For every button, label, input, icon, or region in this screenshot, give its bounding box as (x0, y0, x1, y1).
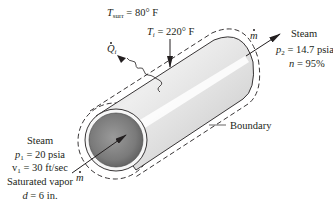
t-i-value: = 220° F (157, 26, 194, 37)
t-surr-value: = 80° F (126, 7, 158, 18)
n-value: = 95% (297, 58, 325, 69)
surroundings-temp-label: Tsurr = 80° F (107, 7, 158, 22)
outlet-pressure-label: p2 = 14.7 psia (276, 44, 333, 59)
n-symbol: n (289, 58, 294, 69)
p2-subscript: 2 (281, 49, 285, 57)
inlet-diameter-label: d = 6 in. (0, 190, 80, 202)
pipe-bore (89, 113, 143, 167)
outlet-efficiency-label: n = 95% (289, 58, 325, 70)
inlet-title: Steam (0, 135, 80, 147)
inlet-state-label: Saturated vapor (0, 176, 80, 188)
outlet-title: Steam (276, 28, 332, 40)
outlet-mass-flow-label: m (250, 30, 258, 42)
inlet-velocity-label: v1 = 30 ft/sec (0, 162, 80, 177)
heat-transfer-label: Qi (107, 43, 117, 58)
v1-value: = 30 ft/sec (23, 162, 67, 173)
q-symbol: Q (107, 43, 115, 55)
d-symbol: d (22, 190, 27, 201)
p2-value: = 14.7 psia (287, 44, 333, 55)
t-i-subscript: i (153, 31, 155, 39)
d-value: = 6 in. (30, 190, 57, 201)
p1-subscript: 1 (20, 154, 24, 162)
outlet-m-dot: m (250, 30, 258, 42)
control-volume-diagram: Tsurr = 80° F Ti = 220° F Qi m Steam p2 … (0, 0, 333, 211)
p1-value: = 20 psia (26, 149, 65, 160)
v1-subscript: 1 (17, 167, 21, 175)
surface-temp-label: Ti = 220° F (147, 26, 194, 41)
t-surr-subscript: surr (113, 12, 124, 20)
boundary-label: Boundary (230, 120, 271, 132)
